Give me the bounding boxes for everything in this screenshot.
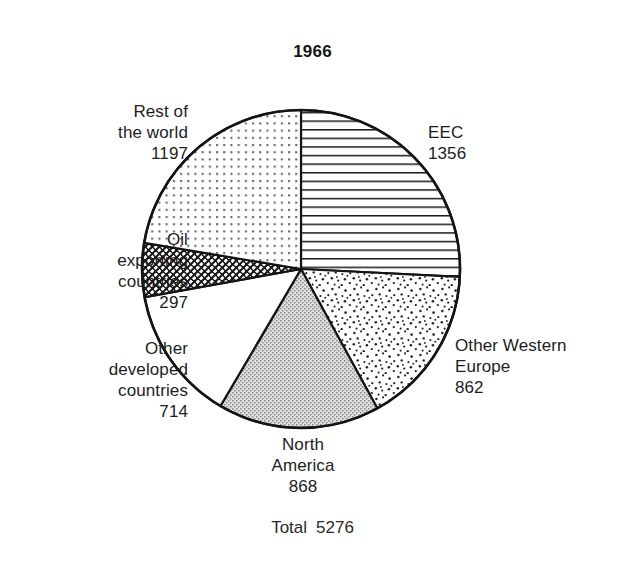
- slice-label-other-western-europe: Other Western Europe 862: [455, 335, 625, 398]
- slice-label-other-developed-countries: Other developed countries 714: [18, 338, 188, 422]
- pie-chart-figure: 1966: [0, 0, 625, 564]
- chart-total: Total5276: [0, 518, 625, 538]
- slice-label-north-america: North America 868: [208, 434, 398, 497]
- slice-label-eec: EEC 1356: [428, 122, 608, 164]
- pie-slices: [142, 110, 460, 428]
- slice-label-oil-exporting-countries: Oil exporting countries 297: [18, 229, 188, 313]
- slice-label-rest-of-the-world: Rest of the world 1197: [28, 101, 188, 164]
- total-label: Total: [271, 518, 307, 537]
- total-value: 5276: [316, 518, 354, 537]
